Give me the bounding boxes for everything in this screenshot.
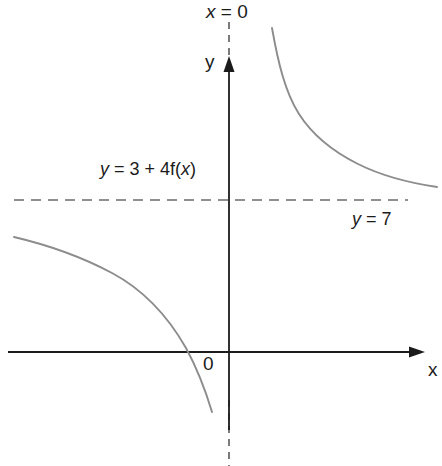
- curve-equation-suffix: ): [190, 159, 196, 179]
- horizontal-asymptote-label-rest: = 7: [361, 209, 392, 229]
- curve-equation-label: y = 3 + 4f(x): [100, 160, 196, 178]
- vertical-asymptote-label: x = 0: [206, 2, 248, 21]
- graph-canvas: [0, 0, 442, 466]
- horizontal-asymptote-label: y = 7: [352, 210, 392, 228]
- curve-lower-left-branch: [14, 237, 212, 412]
- x-axis-arrowhead: [409, 347, 425, 358]
- curve-equation-y: y: [100, 159, 109, 179]
- graph-figure: x = 0 y x 0 y = 3 + 4f(x) y = 7: [0, 0, 442, 466]
- vertical-asymptote-label-rest: = 0: [216, 1, 248, 22]
- x-axis-label: x: [428, 360, 438, 379]
- y-axis-label: y: [205, 52, 215, 71]
- curve-equation-x: x: [181, 159, 190, 179]
- curve-equation-middle: = 3 + 4f(: [109, 159, 181, 179]
- origin-label: 0: [203, 354, 214, 373]
- y-axis-arrowhead: [224, 56, 235, 72]
- curve-upper-right-branch: [272, 28, 437, 187]
- vertical-asymptote-label-variable: x: [206, 1, 216, 22]
- horizontal-asymptote-label-variable: y: [352, 209, 361, 229]
